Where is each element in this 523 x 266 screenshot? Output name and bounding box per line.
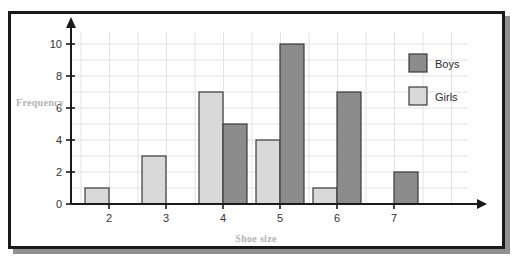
y-axis-title: Frequency <box>16 97 64 108</box>
x-axis-tick-label: 2 <box>106 212 112 224</box>
x-axis-title: Shoe size <box>235 233 277 244</box>
x-axis-tick-label: 5 <box>277 212 283 224</box>
x-axis-tick-label: 6 <box>334 212 340 224</box>
y-axis-tick-label: 0 <box>56 198 62 210</box>
x-axis-tick-label: 4 <box>220 212 226 224</box>
y-axis-tick-label: 10 <box>50 38 62 50</box>
bar-boys-6 <box>337 92 361 204</box>
y-axis-arrow-icon <box>66 17 76 28</box>
bar-boys-4 <box>223 124 247 204</box>
legend-swatch-girls <box>409 87 427 105</box>
x-axis-tick-label: 3 <box>163 212 169 224</box>
bar-girls-6 <box>313 188 337 204</box>
legend-label-boys: Boys <box>435 58 460 70</box>
bar-girls-2 <box>85 188 109 204</box>
chart-legend: BoysGirls <box>409 54 460 105</box>
bar-chart: 0246810 234567 Frequency Shoe size BoysG… <box>11 14 502 246</box>
bar-girls-3 <box>142 156 166 204</box>
legend-swatch-boys <box>409 54 427 72</box>
bar-boys-5 <box>280 44 304 204</box>
bar-girls-4 <box>199 92 223 204</box>
x-axis-tick-labels: 234567 <box>106 204 397 224</box>
chart-plot-area: 0246810 234567 Frequency Shoe size BoysG… <box>11 14 502 246</box>
x-axis-arrow-icon <box>477 199 487 209</box>
y-axis-tick-label: 2 <box>56 166 62 178</box>
bar-girls-5 <box>256 140 280 204</box>
x-axis-tick-label: 7 <box>391 212 397 224</box>
legend-label-girls: Girls <box>435 91 458 103</box>
screenshot-root: 0246810 234567 Frequency Shoe size BoysG… <box>0 0 523 266</box>
chart-frame: 0246810 234567 Frequency Shoe size BoysG… <box>8 11 505 249</box>
y-axis-tick-label: 4 <box>56 134 62 146</box>
bar-boys-7 <box>394 172 418 204</box>
y-axis-tick-label: 8 <box>56 70 62 82</box>
